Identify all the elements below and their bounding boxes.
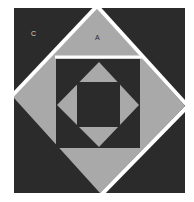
center-dark-square — [77, 82, 120, 127]
label-a: A — [95, 34, 100, 41]
quilt-diagram: C A — [0, 0, 194, 202]
label-c: C — [31, 30, 36, 37]
